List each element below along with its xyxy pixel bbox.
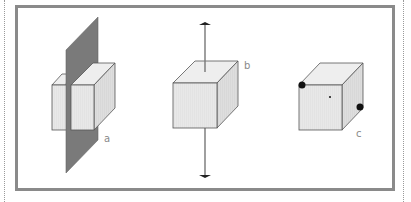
symmetry-figure: a b c — [0, 0, 411, 202]
corner-point-top-icon — [299, 82, 306, 89]
corner-point-bottom-icon — [357, 104, 364, 111]
axis-arrow-top-icon — [199, 22, 211, 25]
inversion-center-icon — [329, 96, 331, 98]
label-c: c — [356, 128, 362, 139]
panel-a: a — [52, 17, 115, 173]
cube-left-half — [52, 74, 68, 130]
panel-b: b — [173, 22, 250, 178]
label-b: b — [244, 60, 250, 71]
panel-c: c — [299, 63, 364, 139]
axis-arrow-bottom-icon — [199, 175, 211, 178]
label-a: a — [104, 133, 110, 144]
